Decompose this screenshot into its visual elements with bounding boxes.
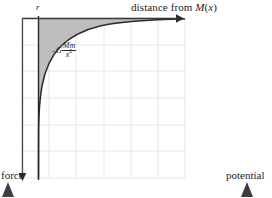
formula-fraction: Mmx2	[62, 42, 76, 60]
formula-denominator-exponent: 2	[69, 49, 72, 55]
section-marker-triangle-right-icon	[241, 182, 253, 197]
potential-label: potential	[226, 170, 265, 181]
asymptote-label-r: r	[36, 3, 40, 12]
gravitational-force-figure: distance from M(x) r force potential –GM…	[0, 0, 272, 198]
formula-lead: –G	[52, 46, 62, 55]
formula-denominator: x2	[62, 50, 76, 59]
y-axis-label: force	[1, 170, 24, 181]
x-axis-label-paren-close: )	[213, 1, 217, 13]
x-axis-label-symbol-M: M	[195, 1, 204, 13]
section-marker-triangle-left-icon	[2, 182, 14, 197]
x-axis-label: distance from M(x)	[131, 2, 217, 13]
curve-formula-label: –GMmx2	[52, 42, 76, 60]
x-axis-label-text: distance from	[131, 1, 195, 13]
